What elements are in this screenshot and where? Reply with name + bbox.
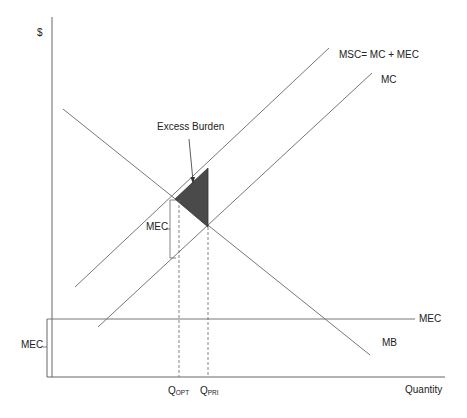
q-opt-label: QOPT — [168, 385, 189, 396]
x-axis-label: Quantity — [405, 384, 442, 395]
externality-diagram: $ MSC= MC + MEC MC MB MEC Excess Burden … — [0, 0, 467, 418]
mb-label: MB — [382, 337, 397, 348]
mc-curve — [98, 73, 372, 327]
mec-gap-label: MEC — [146, 221, 168, 232]
excess-burden-label: Excess Burden — [157, 121, 224, 132]
mb-curve — [63, 109, 370, 355]
q-pri-label: QPRI — [200, 385, 219, 396]
mec-axis-label: MEC — [21, 339, 43, 350]
excess-burden-arrow — [189, 139, 193, 181]
msc-label: MSC= MC + MEC — [339, 49, 419, 60]
mc-label: MC — [381, 74, 397, 85]
y-axis-label: $ — [37, 27, 43, 38]
msc-curve — [75, 48, 329, 287]
mec-label: MEC — [419, 313, 441, 324]
